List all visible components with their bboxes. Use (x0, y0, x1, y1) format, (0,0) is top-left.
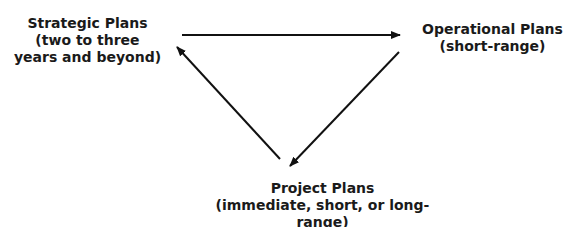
node-title: Project Plans (190, 180, 455, 197)
node-project-plans: Project Plans (immediate, short, or long… (190, 180, 455, 227)
node-subtitle-line: (two to three (0, 32, 175, 49)
node-strategic-plans: Strategic Plans (two to three years and … (0, 15, 175, 66)
arrow-project-to-strategic (177, 47, 280, 159)
arrow-operational-to-project (290, 52, 399, 166)
node-operational-plans: Operational Plans (short-range) (405, 21, 580, 55)
node-title: Strategic Plans (0, 15, 175, 32)
node-title: Operational Plans (405, 21, 580, 38)
node-subtitle-line: (immediate, short, or long-range) (190, 197, 455, 227)
node-subtitle-line: years and beyond) (0, 49, 175, 66)
node-subtitle-line: (short-range) (405, 38, 580, 55)
